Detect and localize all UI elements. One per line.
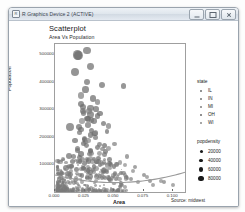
x-tick-label: 0.050 [100,193,126,198]
legend-popdensity-title: popdensity [197,139,221,145]
x-tick-label: 0.025 [71,193,97,198]
legend-dot-icon [200,106,202,108]
legend-state-key-icon [197,87,205,95]
legend-popdensity-items: 20000400006000080000 [197,147,221,183]
legend-state-row: OH [197,111,215,119]
x-tick-mark [54,189,55,191]
y-tick-label: 200000 [26,134,54,139]
legend-popdensity-label: 80000 [208,176,221,182]
legend-size-dot-icon [198,176,203,181]
legend-size-dot-icon [200,150,203,153]
legend-state: state ILINMIOHWI [197,79,215,127]
window-controls [189,9,236,20]
x-tick-label: 0.000 [41,193,67,198]
legend-state-key-icon [197,119,205,127]
legend-popdensity-row: 40000 [197,156,221,165]
y-tick-label: 100000 [26,161,54,166]
close-button[interactable] [221,9,236,20]
legend-state-label: WI [208,120,214,126]
legend-size-dot-icon [199,167,204,172]
trend-line-layer [55,44,185,192]
legend-popdensity-row: 60000 [197,165,221,174]
r-logo-icon: R [12,10,20,18]
x-axis-label: Area [54,199,184,205]
x-tick-mark [84,189,85,191]
legend-state-items: ILINMIOHWI [197,87,215,127]
legend-state-key-icon [197,103,205,111]
legend-state-label: IN [208,96,213,102]
x-tick-mark [172,189,173,191]
legend-state-label: IL [208,88,212,94]
legend-state-row: WI [197,119,215,127]
legend-popdensity-key-icon [197,175,205,183]
legend-dot-icon [200,90,202,92]
screen: R R Graphics Device 2 (ACTIVE) Scatterpl… [0,0,245,212]
window-title: R Graphics Device 2 (ACTIVE) [22,11,93,18]
legend-state-label: OH [208,112,215,118]
plot-panel [54,43,186,193]
window-titlebar[interactable]: R R Graphics Device 2 (ACTIVE) [9,8,238,21]
y-axis-label: Population [8,66,12,91]
legend-popdensity: popdensity 20000400006000080000 [197,139,221,183]
maximize-button[interactable] [205,9,220,20]
minimize-button[interactable] [189,9,204,20]
legend-state-row: IN [197,95,215,103]
x-tick-mark [113,189,114,191]
legend-popdensity-key-icon [197,157,205,165]
legend-popdensity-label: 20000 [208,149,221,155]
r-graphics-device-window: R R Graphics Device 2 (ACTIVE) Scatterpl… [8,7,239,207]
legend-state-key-icon [197,95,205,103]
legend-state-title: state [197,79,215,85]
legend-dot-icon [200,98,202,100]
legend-dot-icon [200,114,202,116]
plot-canvas: Scatterplot Area Vs Population Populatio… [9,21,238,206]
plot-subtitle: Area Vs Population [49,34,94,41]
x-tick-mark [143,189,144,191]
titlebar-left-group: R R Graphics Device 2 (ACTIVE) [12,10,93,18]
y-tick-label: 500000 [26,51,54,56]
plot-caption: Source: midwest [171,198,205,204]
legend-popdensity-label: 60000 [208,167,221,173]
legend-popdensity-key-icon [197,166,205,174]
y-axis: 100000200000300000400000500000 [25,43,54,191]
legend-state-row: IL [197,87,215,95]
legend-state-row: MI [197,103,215,111]
legend-size-dot-icon [199,159,203,163]
plot-title: Scatterplot [49,24,86,33]
y-tick-label: 300000 [26,106,54,111]
legend-state-label: MI [208,104,213,110]
legend-popdensity-row: 80000 [197,174,221,183]
legend-popdensity-label: 40000 [208,158,221,164]
legend-popdensity-row: 20000 [197,147,221,156]
legend-dot-icon [200,122,202,124]
x-tick-label: 0.075 [130,193,156,198]
y-tick-label: 400000 [26,79,54,84]
legend-state-key-icon [197,111,205,119]
legend-popdensity-key-icon [197,148,205,156]
